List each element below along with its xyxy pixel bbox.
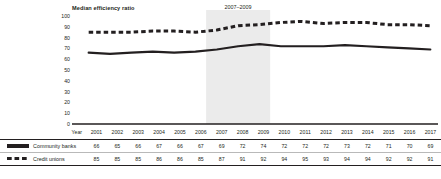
table-cell-value: 85: [86, 153, 107, 166]
solid-line-swatch-icon: [7, 144, 29, 147]
figure-median-efficiency-ratio: Median efficiency ratio 2007–2009 financ…: [0, 0, 441, 179]
legend-entry[interactable]: Credit unions: [0, 153, 86, 166]
table-cell-value: 93: [316, 153, 337, 166]
y-axis-tick-label: 10: [64, 110, 70, 116]
table-header-cell-year: 2007: [211, 126, 232, 140]
table-header-cell-year: 2017: [420, 126, 441, 140]
table-header-cell-year: 2011: [295, 126, 316, 140]
y-axis-tick-label: 90: [64, 24, 70, 30]
table-cell-value: 66: [128, 140, 149, 153]
table-cell-value: 94: [337, 153, 358, 166]
table-cell-value: 85: [190, 153, 211, 166]
table-cell-value: 67: [190, 140, 211, 153]
table-cell-value: 95: [295, 153, 316, 166]
y-axis-tick-label: 60: [64, 56, 70, 62]
table-cell-value: 66: [86, 140, 107, 153]
table-cell-value: 92: [399, 153, 420, 166]
table-cell-value: 72: [295, 140, 316, 153]
legend-cell: Credit unions: [4, 156, 86, 162]
table-cell-value: 94: [274, 153, 295, 166]
y-axis-tick-label: 50: [64, 67, 70, 73]
table-cell-value: 72: [357, 140, 378, 153]
table-header-cell-year: 2013: [337, 126, 358, 140]
table-row: Credit unions858585868685879192949593949…: [0, 153, 441, 166]
legend-cell: Community banks: [4, 143, 86, 149]
chart-plot-area: Median efficiency ratio 2007–2009 financ…: [0, 0, 441, 140]
table-cell-value: 92: [378, 153, 399, 166]
table-cell-value: 74: [253, 140, 274, 153]
dashed-line-swatch-icon: [7, 157, 29, 160]
y-axis-tick-label: 30: [64, 89, 70, 95]
table-header-cell-year: 2012: [316, 126, 337, 140]
table-cell-value: 71: [378, 140, 399, 153]
table-header-cell-year: 2010: [274, 126, 295, 140]
table-header-cell-year: 2015: [378, 126, 399, 140]
table-header-cell-year: 2005: [170, 126, 191, 140]
table-header-cell-year: 2008: [232, 126, 253, 140]
chart-data-table: Year200120022003200420052006200720082009…: [0, 126, 441, 166]
legend-label: Community banks: [33, 143, 76, 149]
y-axis-tick-label: 100: [61, 13, 70, 19]
table-header-cell-year: 2001: [86, 126, 107, 140]
table-cell-value: 94: [357, 153, 378, 166]
y-axis-tick-label: 80: [64, 35, 70, 41]
table-cell-value: 86: [170, 153, 191, 166]
table-header-cell-year: 2002: [107, 126, 128, 140]
table-cell-value: 86: [149, 153, 170, 166]
table-cell-value: 72: [274, 140, 295, 153]
table-cell-value: 91: [420, 153, 441, 166]
table-cell-value: 73: [337, 140, 358, 153]
table-cell-value: 69: [211, 140, 232, 153]
table-row: Community banks6665666766676972747272727…: [0, 140, 441, 153]
table-cell-value: 72: [316, 140, 337, 153]
table-cell-value: 65: [107, 140, 128, 153]
table-header-cell-year: 2014: [357, 126, 378, 140]
table-cell-value: 92: [253, 153, 274, 166]
table-header-year: Year: [0, 126, 86, 140]
y-axis-tick-label: 70: [64, 45, 70, 51]
table-cell-value: 87: [211, 153, 232, 166]
y-axis-tick-label: 40: [64, 78, 70, 84]
table-header-cell-year: 2003: [128, 126, 149, 140]
table-cell-value: 85: [107, 153, 128, 166]
legend-entry[interactable]: Community banks: [0, 140, 86, 153]
table-header-cell-year: 2006: [190, 126, 211, 140]
legend-label: Credit unions: [33, 156, 65, 162]
table-cell-value: 67: [149, 140, 170, 153]
y-axis-tick-label: 20: [64, 99, 70, 105]
table-header-row: Year200120022003200420052006200720082009…: [0, 126, 441, 140]
table-header-cell-year: 2004: [149, 126, 170, 140]
table-cell-value: 85: [128, 153, 149, 166]
table-cell-value: 70: [399, 140, 420, 153]
financial-crisis-shaded-band: [206, 10, 270, 124]
table-header-cell-year: 2016: [399, 126, 420, 140]
table-cell-value: 69: [420, 140, 441, 153]
table-cell-value: 66: [170, 140, 191, 153]
chart-svg: 1009080706050403020100: [0, 0, 441, 140]
table-cell-value: 91: [232, 153, 253, 166]
table-cell-value: 72: [232, 140, 253, 153]
table-header-cell-year: 2009: [253, 126, 274, 140]
data-table: Year200120022003200420052006200720082009…: [0, 126, 441, 166]
